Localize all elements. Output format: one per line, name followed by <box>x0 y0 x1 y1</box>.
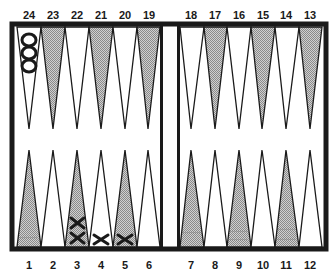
point-label-2: 2 <box>41 259 65 271</box>
point-label-6: 6 <box>137 259 161 271</box>
point-label-12: 12 <box>298 259 322 271</box>
backgammon-board <box>0 0 331 276</box>
point-label-9: 9 <box>227 259 251 271</box>
point-label-5: 5 <box>113 259 137 271</box>
point-label-4: 4 <box>89 259 113 271</box>
point-label-3: 3 <box>65 259 89 271</box>
point-label-8: 8 <box>203 259 227 271</box>
point-label-7: 7 <box>179 259 203 271</box>
point-label-11: 11 <box>274 259 298 271</box>
point-label-1: 1 <box>17 259 41 271</box>
point-label-10: 10 <box>251 259 275 271</box>
bottom-point-labels: 1 2 3 4 5 6 7 8 9 10 11 12 <box>0 259 331 273</box>
